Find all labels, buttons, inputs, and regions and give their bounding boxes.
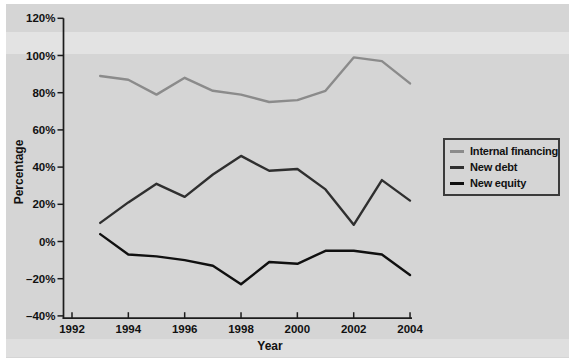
series-line-new-equity bbox=[100, 234, 410, 284]
y-tick-label: 20% bbox=[32, 198, 55, 210]
series-line-new-debt bbox=[100, 156, 410, 225]
x-tick-label: 1996 bbox=[172, 323, 198, 335]
legend-label: New debt bbox=[470, 161, 517, 173]
x-axis-title: Year bbox=[257, 339, 282, 353]
series-line-internal-financing bbox=[100, 57, 410, 102]
legend-row: New equity bbox=[450, 175, 555, 191]
y-tick-label: 60% bbox=[32, 124, 55, 136]
x-tick-label: 2004 bbox=[397, 323, 423, 335]
y-tick-label: –20% bbox=[26, 273, 55, 285]
legend-line-swatch bbox=[450, 182, 464, 185]
legend-row: Internal financing bbox=[450, 143, 555, 159]
legend-label: New equity bbox=[470, 177, 526, 189]
x-tick-label: 1998 bbox=[228, 323, 254, 335]
legend: Internal financingNew debtNew equity bbox=[443, 138, 560, 196]
y-tick-label: 120% bbox=[26, 12, 55, 24]
y-tick-label: 100% bbox=[26, 50, 55, 62]
y-tick-label: 0% bbox=[39, 236, 56, 248]
financing-sources-line-chart-figure: –40%–20%0%20%40%60%80%100%120%1992199419… bbox=[0, 0, 571, 364]
x-tick-label: 2000 bbox=[285, 323, 311, 335]
x-tick-label: 1992 bbox=[59, 323, 85, 335]
y-tick-label: 80% bbox=[32, 87, 55, 99]
y-tick-label: –40% bbox=[26, 310, 55, 322]
x-tick-label: 1994 bbox=[116, 323, 142, 335]
y-tick-label: 40% bbox=[32, 161, 55, 173]
legend-line-swatch bbox=[450, 150, 464, 153]
legend-label: Internal financing bbox=[470, 145, 558, 157]
y-axis-title: Percentage bbox=[12, 140, 26, 205]
legend-row: New debt bbox=[450, 159, 555, 175]
legend-line-swatch bbox=[450, 166, 464, 169]
x-tick-label: 2002 bbox=[341, 323, 367, 335]
